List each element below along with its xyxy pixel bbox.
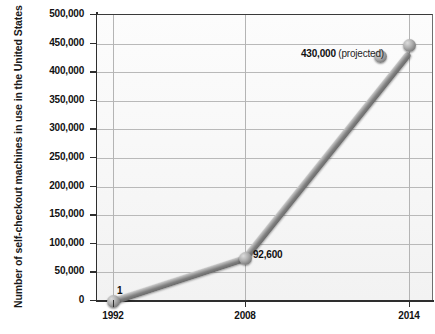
gridline-100000: [97, 244, 432, 245]
ytick-label-250000: 250,000: [49, 151, 84, 162]
x-axis-line: [96, 300, 434, 302]
data-point-2008: [239, 252, 252, 265]
ytick-400000: [90, 71, 97, 72]
annotation-2014-qualifier: (projected): [338, 48, 384, 59]
ytick-label-100000: 100,000: [49, 237, 84, 248]
ytick-label-500000: 500,000: [49, 8, 84, 19]
gridline-300000: [97, 129, 432, 130]
ytick-350000: [90, 100, 97, 101]
ytick-100000: [90, 243, 97, 244]
ytick-label-50000: 50,000: [55, 265, 84, 276]
line-segment-1992-2008: [112, 255, 246, 305]
ytick-label-400000: 400,000: [49, 65, 84, 76]
ytick-label-450000: 450,000: [49, 37, 84, 48]
xtick-2008: [245, 300, 246, 307]
self-checkout-machines-line-chart: Number of self-checkout machines in use …: [0, 0, 435, 334]
gridline-150000: [97, 215, 432, 216]
gridline-450000: [97, 44, 432, 45]
ytick-0: [90, 300, 97, 301]
xtick-2014: [409, 300, 410, 307]
ytick-label-150000: 150,000: [49, 208, 84, 219]
plot-area: 1 92,600 430,000 (projected): [97, 14, 433, 300]
ytick-250000: [90, 157, 97, 158]
gridline-350000: [97, 101, 432, 102]
annotation-1992: 1: [117, 285, 122, 296]
annotation-2014-value: 430,000: [301, 48, 336, 59]
ytick-label-0: 0: [79, 294, 84, 305]
y-axis-title: Number of self-checkout machines in use …: [12, 8, 24, 308]
annotation-2008: 92,600: [253, 249, 282, 260]
ytick-50000: [90, 271, 97, 272]
ytick-150000: [90, 214, 97, 215]
ytick-450000: [90, 43, 97, 44]
gridline-250000: [97, 158, 432, 159]
data-point-2014: [403, 39, 416, 52]
xtick-label-2014: 2014: [379, 310, 435, 321]
ytick-200000: [90, 186, 97, 187]
ytick-label-350000: 350,000: [49, 94, 84, 105]
xtick-1992: [113, 300, 114, 307]
gridline-400000: [97, 72, 432, 73]
annotation-2014: 430,000 (projected): [301, 48, 384, 59]
xtick-label-2008: 2008: [215, 310, 275, 321]
line-segment-2008-2014: [242, 51, 411, 260]
gridline-1992: [113, 15, 114, 300]
ytick-label-300000: 300,000: [49, 122, 84, 133]
gridline-50000: [97, 272, 432, 273]
ytick-label-200000: 200,000: [49, 180, 84, 191]
ytick-500000: [90, 14, 97, 15]
ytick-300000: [90, 128, 97, 129]
xtick-label-1992: 1992: [83, 310, 143, 321]
gridline-200000: [97, 187, 432, 188]
